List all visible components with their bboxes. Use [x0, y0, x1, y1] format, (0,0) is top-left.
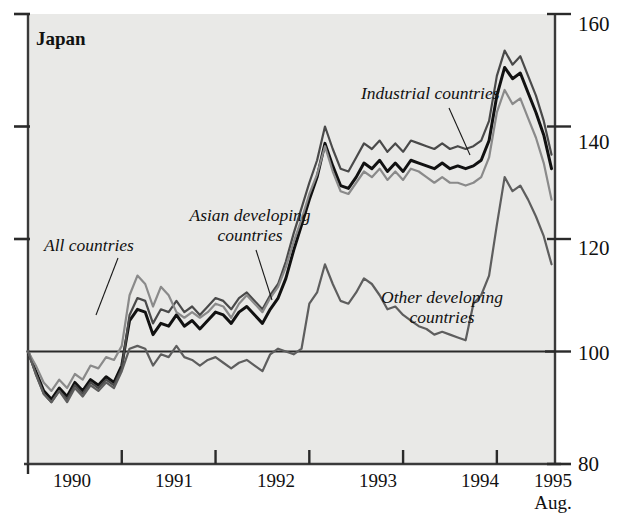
chart-svg — [0, 0, 638, 519]
x-axis-end-note: Aug. — [521, 492, 585, 514]
y-tick-label-160: 160 — [578, 12, 610, 37]
annotation-all-countries: All countries — [44, 236, 134, 256]
page-title: Japan — [36, 28, 86, 50]
annotation-other-line1: Other developing — [366, 288, 518, 308]
x-tick-label-1990: 1990 — [30, 470, 114, 492]
y-tick-label-120: 120 — [578, 236, 610, 261]
x-tick-label-1993: 1993 — [336, 470, 420, 492]
leader-all-countries — [96, 258, 118, 315]
x-tick-label-1991: 1991 — [132, 470, 216, 492]
annotation-industrial-line1: Industrial countries — [361, 83, 500, 103]
annotation-asian-line2: countries — [176, 226, 324, 246]
annotation-other-line2: countries — [366, 308, 518, 328]
annotation-other-developing-countries: Other developing countries — [366, 288, 518, 327]
annotation-asian-developing-countries: Asian developing countries — [176, 206, 324, 245]
x-tick-label-1995: 1995 — [521, 470, 585, 492]
y-tick-label-140: 140 — [578, 130, 610, 155]
y-tick-label-100: 100 — [578, 341, 610, 366]
annotation-all-countries-line1: All countries — [44, 235, 134, 255]
annotation-asian-line1: Asian developing — [176, 206, 324, 226]
x-tick-label-1992: 1992 — [234, 470, 318, 492]
leader-asian — [256, 250, 272, 300]
chart-figure: Japan 160 140 120 100 80 1990 1991 1992 … — [0, 0, 638, 519]
annotation-industrial-countries: Industrial countries — [361, 84, 500, 104]
x-tick-label-1994: 1994 — [438, 470, 522, 492]
